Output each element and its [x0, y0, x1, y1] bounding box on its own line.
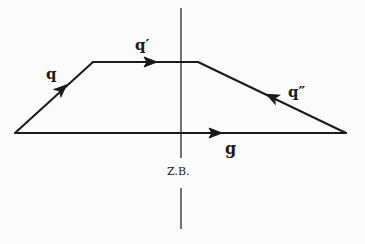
label-q-double-prime: q″ [288, 85, 305, 100]
vector-diagram [0, 0, 365, 244]
arrow-head-q-double-prime-icon [264, 90, 279, 104]
label-g: g [225, 141, 236, 157]
zone-boundary-label: Z.B. [167, 166, 190, 177]
label-q: q [46, 67, 57, 82]
label-q-prime: q′ [135, 38, 149, 53]
diagram-canvas: q q′ q″ g Z.B. [0, 0, 365, 244]
